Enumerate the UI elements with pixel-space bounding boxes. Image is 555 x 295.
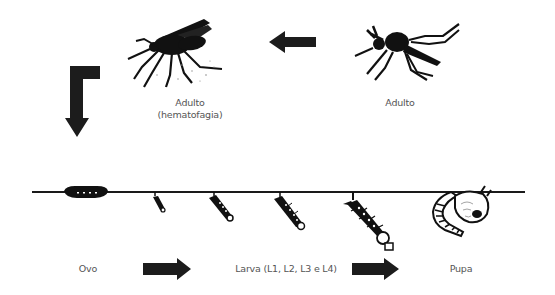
arrow-left-icon <box>269 31 317 53</box>
larva-l4-icon <box>341 192 401 252</box>
egg-icon <box>63 184 109 200</box>
arrow-right-icon <box>143 258 191 280</box>
egg-label: Ovo <box>70 263 106 275</box>
arrow-right-icon <box>352 258 400 280</box>
adult-feeding-label-line2: (hematofagia) <box>140 109 240 121</box>
adult-feeding-mosquito-icon <box>122 17 226 89</box>
adult-feeding-label: Adulto (hematofagia) <box>140 97 240 121</box>
larva-label: Larva (L1, L2, L3 e L4) <box>226 263 346 275</box>
larva-l3-icon <box>272 192 308 232</box>
larva-l2-icon <box>208 192 238 224</box>
arrow-down-icon <box>65 66 101 138</box>
pupa-label: Pupa <box>441 263 481 275</box>
adult-feeding-label-line1: Adulto <box>140 97 240 109</box>
adult-mosquito-icon <box>355 22 461 82</box>
larva-l1-icon <box>152 192 168 214</box>
adult-label: Adulto <box>370 97 430 109</box>
pupa-icon <box>427 190 493 242</box>
